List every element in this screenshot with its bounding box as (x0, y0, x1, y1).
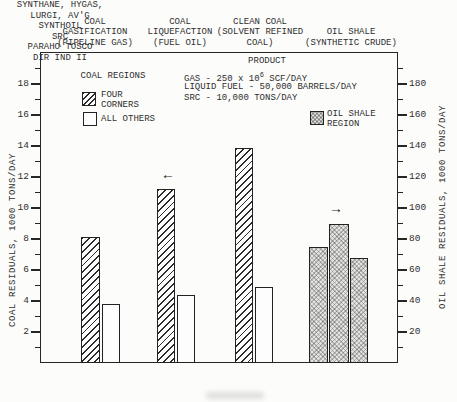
right-axis-minor-tick (398, 161, 403, 162)
right-axis-major-tick (398, 207, 407, 208)
right-axis-tick-label: 60 (409, 265, 437, 276)
oil-shale-region-swatch (310, 111, 324, 125)
left-axis-minor-tick (35, 223, 40, 224)
left-axis-tick-label: 16 (8, 110, 29, 121)
right-axis-minor-tick (398, 316, 403, 317)
right-axis-major-tick (398, 145, 407, 146)
x-axis-label-4: PARAHO TOSCODIR IND II (0, 42, 120, 63)
four-corners-label-line2: CORNERS (101, 100, 139, 110)
faint-caption-artifact (206, 392, 264, 399)
x-axis-label-1: SYNTHANE, HYGAS,LURGI, AV'G (0, 0, 120, 21)
x-axis-label-2: SYNTHOIL (0, 21, 120, 32)
bar-oil-shale-region-4-2 (329, 224, 349, 364)
left-arrow-icon: ← (157, 169, 179, 181)
bar-oil-shale-region-4-1 (309, 247, 328, 363)
four-corners-label-line1: FOUR (101, 90, 139, 100)
all-others-label: ALL OTHERS (101, 114, 155, 125)
x-axis-label-line: SYNTHANE, HYGAS, (0, 0, 120, 11)
right-axis-minor-tick (398, 254, 403, 255)
four-corners-swatch (82, 92, 96, 106)
x-axis-label-line: SRC (0, 32, 120, 43)
bar-four-corners-2-1 (157, 189, 175, 363)
left-axis-major-tick (31, 83, 40, 84)
x-axis-label-3: SRC (0, 32, 120, 43)
all-others-swatch (83, 112, 97, 126)
right-axis-tick-label: 180 (409, 79, 437, 90)
left-axis-minor-tick (35, 161, 40, 162)
bar-oil-shale-region-4-3 (350, 258, 368, 363)
right-axis-minor-tick (398, 285, 403, 286)
right-axis-tick-label: 100 (409, 203, 437, 214)
product-note-title: PRODUCT (217, 56, 317, 67)
left-axis-major-tick (31, 114, 40, 115)
bar-all-others-3-2 (255, 287, 273, 363)
left-axis-major-tick (31, 176, 40, 177)
left-axis-minor-tick (35, 192, 40, 193)
right-axis-tick-label: 40 (409, 296, 437, 307)
oil-shale-region-label: OIL SHALE REGION (327, 109, 376, 129)
four-corners-label: FOUR CORNERS (101, 90, 139, 110)
left-axis-major-tick (31, 300, 40, 301)
right-axis-major-tick (398, 300, 407, 301)
left-axis-tick-label: 10 (8, 203, 29, 214)
right-arrow-icon: → (325, 203, 347, 215)
left-axis-minor-tick (35, 347, 40, 348)
right-axis-minor-tick (398, 347, 403, 348)
right-axis-major-tick (398, 331, 407, 332)
right-axis-tick-label: 80 (409, 234, 437, 245)
left-axis-tick-label: 12 (8, 172, 29, 183)
left-axis-tick-label: 4 (8, 296, 29, 307)
x-axis-label-line: PARAHO TOSCO (0, 42, 120, 53)
left-axis-minor-tick (35, 316, 40, 317)
bar-four-corners-3-1 (235, 148, 253, 363)
right-axis-minor-tick (398, 68, 403, 69)
right-axis-major-tick (398, 176, 407, 177)
left-axis-minor-tick (35, 68, 40, 69)
bar-four-corners-1-1 (81, 237, 100, 363)
left-axis-tick-label: 14 (8, 141, 29, 152)
left-axis-minor-tick (35, 99, 40, 100)
bar-all-others-2-2 (177, 295, 195, 363)
product-note-src-line: SRC - 10,000 TONS/DAY (184, 93, 297, 104)
left-axis-major-tick (31, 269, 40, 270)
oil-shale-region-label-line1: OIL SHALE (327, 109, 376, 119)
right-axis-minor-tick (398, 192, 403, 193)
x-axis-label-line: DIR IND II (0, 53, 120, 64)
bar-chart-figure: COALGASIFICATION(PIPELINE GAS)COALLIQUEF… (0, 0, 457, 402)
left-axis-tick-label: 18 (8, 79, 29, 90)
left-axis-major-tick (31, 238, 40, 239)
bar-all-others-1-2 (102, 304, 120, 363)
right-axis-tick-label: 20 (409, 327, 437, 338)
right-axis-major-tick (398, 238, 407, 239)
left-axis-minor-tick (35, 285, 40, 286)
x-axis-label-line: SYNTHOIL (0, 21, 120, 32)
left-axis-tick-label: 6 (8, 265, 29, 276)
coal-regions-legend-title: COAL REGIONS (63, 71, 163, 82)
left-axis-tick-label: 2 (8, 327, 29, 338)
left-axis-major-tick (31, 145, 40, 146)
right-axis-major-tick (398, 114, 407, 115)
left-axis-tick-label: 8 (8, 234, 29, 245)
product-note-liquid-line: LIQUID FUEL - 50,000 BARRELS/DAY (184, 82, 357, 93)
left-axis-minor-tick (35, 130, 40, 131)
right-axis-tick-label: 120 (409, 172, 437, 183)
right-axis-tick-label: 140 (409, 141, 437, 152)
left-axis-major-tick (31, 207, 40, 208)
x-axis-label-line: LURGI, AV'G (0, 11, 120, 22)
left-axis-major-tick (31, 331, 40, 332)
right-axis-tick-label: 160 (409, 110, 437, 121)
left-axis-minor-tick (35, 254, 40, 255)
right-axis-minor-tick (398, 99, 403, 100)
right-axis-minor-tick (398, 130, 403, 131)
right-axis-minor-tick (398, 223, 403, 224)
oil-shale-region-label-line2: REGION (327, 119, 376, 129)
right-axis-major-tick (398, 83, 407, 84)
right-axis-major-tick (398, 269, 407, 270)
